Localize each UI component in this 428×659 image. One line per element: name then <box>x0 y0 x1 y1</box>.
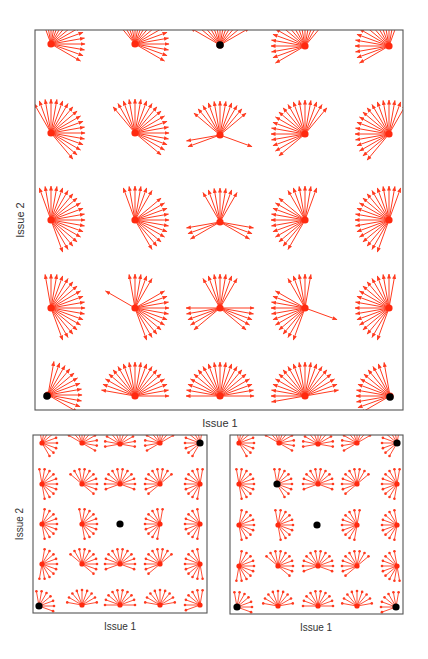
arrow-tip-dot <box>331 440 334 443</box>
arrow-tip-dot <box>81 427 84 430</box>
fan-center <box>117 441 122 446</box>
arrow-tip-dot <box>344 514 347 517</box>
arrow-tip-dot <box>124 429 127 432</box>
arrow-tip-dot <box>107 473 110 476</box>
arrow-tip-dot <box>393 497 396 500</box>
arrow-tip-dot <box>341 565 344 568</box>
fan-center <box>354 563 359 568</box>
arrow-tip-dot <box>319 550 322 553</box>
arrow-tip-dot <box>191 536 194 539</box>
fan-center <box>385 42 392 49</box>
arrow-tip-dot <box>291 560 294 563</box>
arrow-tip-dot <box>393 550 396 553</box>
arrow-tip-dot <box>291 483 294 486</box>
arrow-tip-dot <box>240 579 243 582</box>
arrow-tip-dot <box>156 548 159 551</box>
arrow-tip-dot <box>95 444 98 447</box>
bottom-left-x-axis-label: Issue 1 <box>104 621 137 632</box>
arrow-tip-dot <box>187 532 190 535</box>
arrow-tip-dot <box>279 509 282 512</box>
arrow-tip-dot <box>185 488 188 491</box>
arrow <box>273 134 305 146</box>
fan-center <box>275 522 280 527</box>
arrow-tip-dot <box>305 555 308 558</box>
arrow-tip-dot <box>133 558 136 561</box>
arrow-tip-dot <box>187 432 190 435</box>
arrow-tip-dot <box>90 592 93 595</box>
arrow-tip-dot <box>388 470 391 473</box>
arrow-tip-dot <box>96 483 99 486</box>
arrow-tip-dot <box>291 570 294 573</box>
arrow-tip-dot <box>95 528 98 531</box>
arrow-tip-dot <box>151 510 154 513</box>
arrow-tip-dot <box>384 533 387 536</box>
arrow-tip-dot <box>187 451 190 454</box>
arrow-tip-dot <box>106 435 109 438</box>
arrow-fan <box>184 589 204 612</box>
arrow-tip-dot <box>130 594 133 597</box>
arrow-tip-dot <box>168 430 171 433</box>
arrow-fan <box>78 508 98 540</box>
arrow-tip-dot <box>397 591 400 594</box>
arrow-tip-dot <box>105 478 108 481</box>
arrow-fan <box>184 548 204 580</box>
arrow-tip-dot <box>184 604 187 607</box>
arrow-tip-dot <box>398 427 401 430</box>
arrow <box>106 291 135 308</box>
arrow-tip-dot <box>170 473 173 476</box>
fan-center <box>131 40 138 47</box>
arrow-tip-dot <box>245 552 248 555</box>
arrow-tip-dot <box>341 524 344 527</box>
arrow-tip-dot <box>356 427 359 430</box>
arrow-tip-dot <box>361 591 364 594</box>
fan-center <box>216 304 223 311</box>
arrow-tip-dot <box>381 483 384 486</box>
arrow-tip-dot <box>351 591 354 594</box>
arrow-tip-dot <box>384 555 387 558</box>
arrow-tip-dot <box>69 473 72 476</box>
ideal-point-marker <box>386 393 394 401</box>
arrow-tip-dot <box>104 604 107 607</box>
arrow-tip-dot <box>185 478 188 481</box>
arrow <box>305 102 317 134</box>
arrow-tip-dot <box>252 560 255 563</box>
arrow-tip-dot <box>185 518 188 521</box>
arrow-tip-dot <box>388 496 391 499</box>
arrow-tip-dot <box>105 599 108 602</box>
arrow-tip-dot <box>52 610 55 613</box>
fan-center <box>47 304 54 311</box>
arrow-tip-dot <box>88 536 91 539</box>
fan-center <box>275 603 280 608</box>
arrow-tip-dot <box>365 593 368 596</box>
arrow-tip-dot <box>164 428 167 431</box>
arrow-tip-dot <box>121 548 124 551</box>
arrow-tip-dot <box>305 473 308 476</box>
arrow <box>305 188 317 220</box>
arrow-fan <box>184 508 203 540</box>
arrow-tip-dot <box>288 514 291 517</box>
arrow-fan <box>187 101 252 147</box>
arrow-tip-dot <box>267 593 270 596</box>
arrow-tip-dot <box>78 468 81 471</box>
panel-bottom-left <box>33 427 207 613</box>
arrow-fan <box>271 362 338 402</box>
arrow-tip-dot <box>324 592 327 595</box>
fan-center <box>276 440 281 445</box>
arrow <box>363 134 389 156</box>
arrow-fan <box>274 509 294 541</box>
arrow-tip-dot <box>172 596 175 599</box>
panel-bottom-right <box>230 427 403 614</box>
fan-center <box>117 561 122 566</box>
arrow-tip-dot <box>388 578 391 581</box>
arrow-tip-dot <box>288 533 291 536</box>
arrow-tip-dot <box>348 470 351 473</box>
arrow-tip-dot <box>398 468 401 471</box>
arrow-tip-dot <box>107 594 110 597</box>
arrow-fan <box>187 188 254 239</box>
arrow-tip-dot <box>43 468 46 471</box>
ideal-point-marker <box>233 603 240 610</box>
arrow-tip-dot <box>384 451 387 454</box>
fan-center <box>385 216 392 223</box>
arrow-tip-dot <box>130 473 133 476</box>
arrow-tip-dot <box>145 568 148 571</box>
